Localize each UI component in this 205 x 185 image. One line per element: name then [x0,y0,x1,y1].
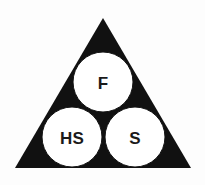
circle-label-s: S [129,129,141,148]
circle-label-hs: HS [60,129,84,148]
triangle-venn-diagram: F HS S [0,0,205,185]
circle-group-s[interactable]: S [105,107,165,167]
circle-label-f: F [98,74,109,93]
circle-group-f[interactable]: F [73,52,133,112]
circle-group-hs[interactable]: HS [42,107,102,167]
diagram-container: F HS S [0,0,205,185]
